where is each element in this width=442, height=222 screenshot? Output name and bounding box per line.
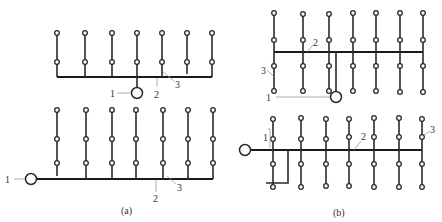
sprinkler-nodes (271, 116, 425, 190)
label-1: 1 (5, 174, 10, 185)
caption-a: (a) (121, 205, 132, 217)
label-3: 3 (261, 65, 266, 76)
label-3: 3 (177, 182, 182, 193)
label-2: 2 (313, 37, 318, 48)
label-1: 1 (110, 88, 115, 99)
panel-a-top: 1 2 3 (55, 31, 215, 100)
caption-b: (b) (333, 207, 345, 219)
sprinkler-nodes (55, 108, 216, 166)
water-source-circle (132, 88, 143, 99)
label-1: 1 (266, 92, 271, 103)
panel-a-bottom: 1 2 3 (a) (5, 108, 215, 217)
pipe-network-diagram: 1 2 3 1 2 3 (a) (0, 0, 442, 222)
feeder-pipe (266, 150, 288, 183)
sprinkler-nodes (55, 31, 215, 65)
panel-b-bottom: 1 2 3 (b) (240, 116, 436, 219)
panel-b-top: 1 2 3 (261, 11, 425, 103)
water-source-circle (26, 174, 37, 185)
water-source-circle (331, 92, 342, 103)
water-source-circle (240, 145, 251, 156)
label-2: 2 (361, 131, 366, 142)
label-2: 2 (153, 193, 158, 204)
label-3: 3 (175, 79, 180, 90)
label-1: 1 (263, 132, 268, 143)
label-3: 3 (430, 124, 435, 135)
label-2: 2 (154, 89, 159, 100)
